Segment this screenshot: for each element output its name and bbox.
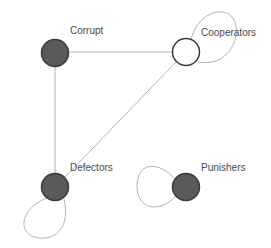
node-punishers[interactable]: [173, 174, 200, 201]
self-loop-punishers: [137, 166, 176, 207]
edge-cooperators-defectors: [65, 62, 176, 177]
label-punishers: Punishers: [201, 162, 245, 173]
node-corrupt[interactable]: [42, 40, 69, 67]
self-loop-defectors: [24, 198, 66, 238]
node-cooperators[interactable]: [173, 39, 200, 66]
label-cooperators: Cooperators: [201, 27, 256, 38]
network-diagram: Corrupt Cooperators Defectors Punishers: [0, 0, 271, 248]
node-defectors[interactable]: [42, 174, 69, 201]
label-corrupt: Corrupt: [70, 25, 104, 36]
label-defectors: Defectors: [70, 162, 113, 173]
